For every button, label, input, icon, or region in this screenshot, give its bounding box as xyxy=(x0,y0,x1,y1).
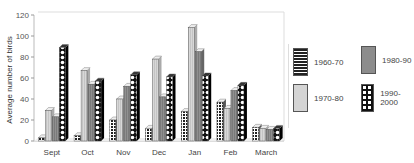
y-tick-label: 20 xyxy=(20,116,29,125)
y-tick-label: 60 xyxy=(20,74,29,83)
y-tick-label: 120 xyxy=(16,11,30,20)
bar-chart: 020406080100120SeptOctNovDecJanFebMarch … xyxy=(0,0,290,163)
legend-item-1980-90: 1980-90 xyxy=(361,46,411,74)
dots-pattern-swatch-icon xyxy=(361,84,374,112)
bar-Oct-1990-2000 xyxy=(95,78,104,141)
x-tick-label: Oct xyxy=(81,148,94,157)
y-axis-label: Average number of birds xyxy=(5,36,14,123)
x-tick-label: Nov xyxy=(116,148,130,157)
y-tick-label: 0 xyxy=(25,137,30,146)
bar-Nov-1990-2000 xyxy=(131,72,140,141)
bar-Jan-1990-2000 xyxy=(202,73,211,141)
legend-item-1990-2000: 1990-2000 xyxy=(361,84,413,112)
legend-item-1970-80: 1970-80 xyxy=(293,84,343,112)
bar-Sept-1990-2000 xyxy=(59,45,68,141)
bar-March-1990-2000 xyxy=(274,125,283,141)
y-tick-label: 40 xyxy=(20,95,29,104)
bar-Feb-1990-2000 xyxy=(238,82,247,141)
light-gray-swatch-icon xyxy=(293,84,308,112)
grid-pattern-swatch-icon xyxy=(293,48,308,76)
legend-item-1960-70: 1960-70 xyxy=(293,48,343,76)
x-tick-label: Dec xyxy=(152,148,166,157)
legend: 1960-70 1980-90 1970-80 1990-2000 xyxy=(288,44,413,128)
x-tick-label: Feb xyxy=(224,148,238,157)
y-tick-label: 80 xyxy=(20,53,29,62)
x-tick-label: March xyxy=(255,148,277,157)
bar-Dec-1990-2000 xyxy=(167,74,176,141)
x-tick-label: Jan xyxy=(188,148,201,157)
dark-gray-swatch-icon xyxy=(361,46,376,74)
x-tick-label: Sept xyxy=(44,148,61,157)
y-tick-label: 100 xyxy=(16,32,30,41)
